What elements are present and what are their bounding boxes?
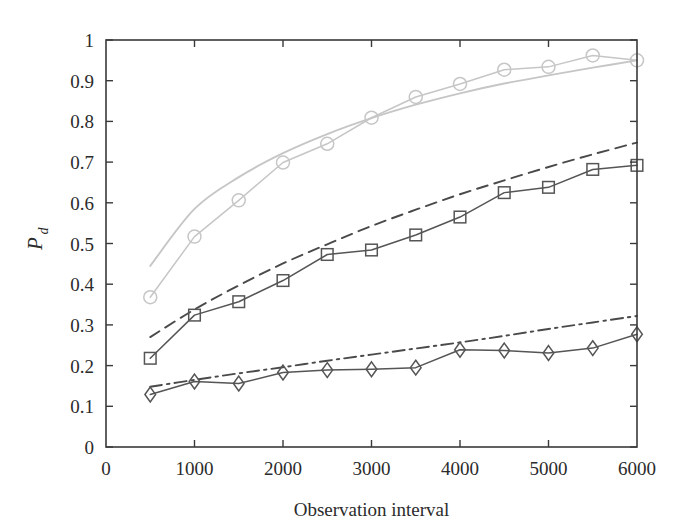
y-tick-label: 0.5 (70, 234, 94, 255)
line-chart: 00.10.20.30.40.50.60.70.80.9101000200030… (0, 0, 682, 531)
y-tick-label: 0.9 (70, 71, 94, 92)
series-simulation-circles (144, 49, 644, 304)
y-tick-label: 1 (85, 30, 95, 51)
x-tick-label: 2000 (264, 458, 302, 479)
x-tick-label: 0 (101, 458, 111, 479)
y-tick-label: 0.7 (70, 152, 94, 173)
series-simulation-diamonds (145, 327, 642, 402)
x-tick-label: 6000 (618, 458, 656, 479)
x-axis-title: Observation interval (294, 499, 450, 520)
series-line-simulation-squares (150, 165, 637, 358)
y-axis-title-base: P (23, 237, 47, 251)
y-axis-title-subscript: d (36, 227, 51, 235)
y-tick-label: 0.8 (70, 111, 94, 132)
x-tick-label: 5000 (530, 458, 568, 479)
y-tick-label: 0.2 (70, 356, 94, 377)
y-tick-label: 0 (85, 437, 95, 458)
chart-figure: 00.10.20.30.40.50.60.70.80.9101000200030… (0, 0, 682, 531)
series-line-theory-middle (150, 143, 637, 338)
series-layer (144, 49, 644, 402)
series-line-simulation-circles (150, 55, 637, 297)
series-theory-middle (150, 143, 637, 338)
x-tick-label: 4000 (441, 458, 479, 479)
y-tick-label: 0.1 (70, 396, 94, 417)
y-tick-label: 0.3 (70, 315, 94, 336)
series-line-simulation-diamonds (150, 334, 637, 394)
x-tick-label: 1000 (176, 458, 214, 479)
x-tick-label: 3000 (353, 458, 391, 479)
y-tick-label: 0.6 (70, 193, 94, 214)
y-tick-label: 0.4 (70, 274, 94, 295)
y-axis-title: Pd (23, 227, 51, 251)
